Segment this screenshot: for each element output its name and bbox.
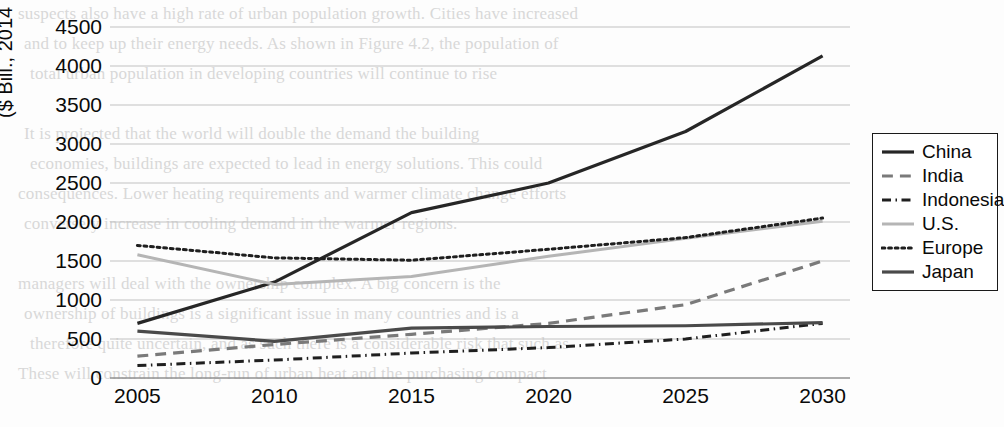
legend-line-swatch bbox=[881, 169, 915, 183]
legend-line-swatch bbox=[881, 193, 915, 207]
y-tick-label: 2500 bbox=[2, 171, 102, 195]
chart-figure: suspects also have a high rate of urban … bbox=[0, 0, 1004, 427]
y-tick-label: 4500 bbox=[2, 15, 102, 39]
y-tick-label: 2000 bbox=[2, 210, 102, 234]
y-tick-label: 3500 bbox=[2, 93, 102, 117]
x-tick-label: 2030 bbox=[799, 384, 846, 408]
y-tick-label: 0 bbox=[2, 366, 102, 390]
legend-item-label: India bbox=[922, 165, 963, 187]
line-chart-canvas bbox=[110, 27, 850, 378]
legend-line-swatch bbox=[881, 241, 915, 255]
legend-item-label: Europe bbox=[922, 237, 983, 259]
legend-item-china[interactable]: China bbox=[873, 140, 997, 164]
x-tick-label: 2015 bbox=[388, 384, 435, 408]
legend-line-swatch bbox=[881, 217, 915, 231]
legend-item-india[interactable]: India bbox=[873, 164, 997, 188]
x-tick-label: 2005 bbox=[114, 384, 161, 408]
series-line-india bbox=[137, 261, 822, 356]
legend-item-europe[interactable]: Europe bbox=[873, 236, 997, 260]
legend-item-japan[interactable]: Japan bbox=[873, 260, 997, 284]
bleed-line: suspects also have a high rate of urban … bbox=[18, 4, 578, 24]
y-tick-label: 500 bbox=[2, 327, 102, 351]
x-tick-label: 2010 bbox=[251, 384, 298, 408]
legend-line-swatch bbox=[881, 265, 915, 279]
legend-item-label: China bbox=[922, 141, 972, 163]
legend-item-label: Japan bbox=[922, 261, 974, 283]
legend-item-us[interactable]: U.S. bbox=[873, 212, 997, 236]
y-tick-label: 3000 bbox=[2, 132, 102, 156]
y-tick-label: 4000 bbox=[2, 54, 102, 78]
series-line-us bbox=[137, 221, 822, 284]
y-tick-label: 1500 bbox=[2, 249, 102, 273]
x-tick-label: 2020 bbox=[525, 384, 572, 408]
chart-legend: ChinaIndiaIndonesiaU.S.EuropeJapan bbox=[872, 133, 998, 291]
series-line-china bbox=[137, 56, 822, 324]
legend-line-swatch bbox=[881, 145, 915, 159]
legend-item-label: U.S. bbox=[922, 213, 959, 235]
plot-area bbox=[110, 27, 850, 378]
y-tick-label: 1000 bbox=[2, 288, 102, 312]
x-tick-label: 2025 bbox=[662, 384, 709, 408]
legend-item-label: Indonesia bbox=[922, 189, 1004, 211]
series-line-europe bbox=[137, 218, 822, 260]
legend-item-indonesia[interactable]: Indonesia bbox=[873, 188, 997, 212]
